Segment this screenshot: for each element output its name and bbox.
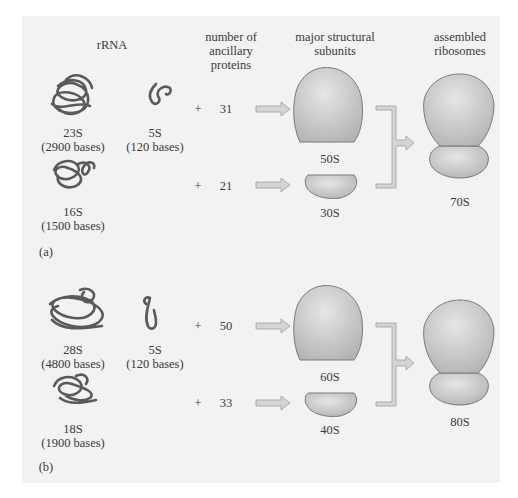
rrna-16s-label: 16S (1500 bases) xyxy=(38,205,108,233)
rrna-5s-label-b: 5S (120 bases) xyxy=(120,343,190,371)
combine-bracket-b xyxy=(376,323,414,406)
header-subunits-line-1: major structural xyxy=(285,30,385,44)
header-ribosomes-line-1: assembled xyxy=(425,30,495,44)
rrna-23s-name: 23S xyxy=(38,126,108,140)
ribosome-70s-shape xyxy=(424,74,494,178)
small-subunit-shape-b xyxy=(305,393,356,417)
ribosome-label-a: 70S xyxy=(440,195,480,209)
protein-count-large-a: 31 xyxy=(214,102,238,116)
rrna-5s-name-a: 5S xyxy=(120,126,190,140)
plus-sign: + xyxy=(192,102,204,116)
rrna-16s-coil xyxy=(54,161,94,187)
header-ribosomes: assembled ribosomes xyxy=(425,30,495,58)
rrna-5s-coil-a xyxy=(150,84,171,104)
rrna-28s-coil xyxy=(50,289,103,328)
rrna-5s-label-a: 5S (120 bases) xyxy=(120,126,190,154)
header-rrna: rRNA xyxy=(92,38,132,52)
header-proteins-line-1: number of xyxy=(196,30,266,44)
large-subunit-shape-b xyxy=(294,286,363,360)
plus-sign: + xyxy=(192,319,204,333)
rrna-18s-coil xyxy=(54,375,96,403)
large-subunit-label-b: 60S xyxy=(310,370,350,384)
plus-sign: + xyxy=(192,179,204,193)
ribosome-label-b: 80S xyxy=(440,415,480,429)
header-proteins-line-3: proteins xyxy=(196,58,266,72)
large-subunit-shape-a xyxy=(294,68,363,142)
header-proteins-line-2: ancillary xyxy=(196,44,266,58)
ribosome-80s-shape xyxy=(424,300,494,405)
rrna-5s-size-a: (120 bases) xyxy=(120,140,190,154)
small-subunit-label-a: 30S xyxy=(310,206,350,220)
protein-count-small-a: 21 xyxy=(214,179,238,193)
rrna-18s-size: (1900 bases) xyxy=(38,436,108,450)
rrna-23s-coil xyxy=(52,75,92,113)
protein-count-large-b: 50 xyxy=(214,319,238,333)
header-subunits: major structural subunits xyxy=(285,30,385,58)
rrna-5s-size-b: (120 bases) xyxy=(120,357,190,371)
protein-count-small-b: 33 xyxy=(214,396,238,410)
rrna-28s-name: 28S xyxy=(38,343,108,357)
arrow-to-small-subunit-a xyxy=(256,178,290,192)
panel-label-b: (b) xyxy=(36,460,56,474)
rrna-18s-label: 18S (1900 bases) xyxy=(38,422,108,450)
rrna-23s-label: 23S (2900 bases) xyxy=(38,126,108,154)
rrna-23s-size: (2900 bases) xyxy=(38,140,108,154)
panel-label-a: (a) xyxy=(36,245,56,259)
header-proteins: number of ancillary proteins xyxy=(196,30,266,72)
rrna-5s-name-b: 5S xyxy=(120,343,190,357)
rrna-16s-size: (1500 bases) xyxy=(38,219,108,233)
rrna-16s-name: 16S xyxy=(38,205,108,219)
arrow-to-large-subunit-a xyxy=(256,102,290,116)
plus-sign: + xyxy=(192,396,204,410)
combine-bracket-a xyxy=(376,106,414,188)
large-subunit-label-a: 50S xyxy=(310,152,350,166)
rrna-28s-size: (4800 bases) xyxy=(38,357,108,371)
small-subunit-shape-a xyxy=(305,175,356,199)
arrow-to-small-subunit-b xyxy=(256,396,290,410)
header-ribosomes-line-2: ribosomes xyxy=(425,44,495,58)
rrna-5s-coil-b xyxy=(144,297,156,328)
arrow-to-large-subunit-b xyxy=(256,319,290,333)
rrna-18s-name: 18S xyxy=(38,422,108,436)
rrna-28s-label: 28S (4800 bases) xyxy=(38,343,108,371)
header-subunits-line-2: subunits xyxy=(285,44,385,58)
small-subunit-label-b: 40S xyxy=(310,423,350,437)
